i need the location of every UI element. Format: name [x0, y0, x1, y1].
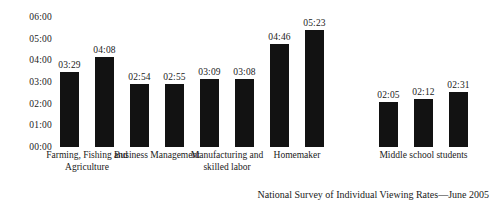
bar-slot: 04:08: [95, 12, 114, 147]
y-tick-label: 01:00: [29, 120, 52, 130]
bar: [379, 102, 398, 147]
bar-value-label: 02:31: [447, 80, 470, 90]
bar-value-label: 03:29: [58, 60, 81, 70]
bar-value-label: 03:08: [233, 67, 256, 77]
bar: [95, 57, 114, 147]
bar: [270, 44, 289, 147]
bar-value-label: 02:12: [412, 87, 435, 97]
bar-chart: 06:0005:0004:0003:0002:0001:0000:00 03:2…: [0, 0, 495, 207]
bar: [305, 30, 324, 147]
category-axis: Farming, Fishing and AgricultureBusiness…: [56, 150, 495, 192]
bar-value-label: 04:46: [268, 32, 291, 42]
bar: [130, 84, 149, 147]
bar-value-label: 03:09: [198, 67, 221, 77]
y-tick-label: 03:00: [29, 77, 52, 87]
bar-slot: 05:23: [305, 12, 324, 147]
bar-slot: 02:54: [130, 12, 149, 147]
y-tick-label: 05:00: [29, 34, 52, 44]
bar-slot: 02:31: [449, 12, 468, 147]
chart-caption: National Survey of Individual Viewing Ra…: [258, 189, 489, 201]
bar-value-label: 02:55: [163, 72, 186, 82]
bar-slot: 03:09: [200, 12, 219, 147]
y-tick-label: 04:00: [29, 55, 52, 65]
bar: [60, 72, 79, 147]
bar-slot: 04:46: [270, 12, 289, 147]
bar: [200, 79, 219, 147]
bar-slot: 03:08: [235, 12, 254, 147]
y-tick-label: 06:00: [29, 12, 52, 22]
bar-value-label: 04:08: [93, 45, 116, 55]
bar: [165, 84, 184, 147]
bar-value-label: 02:54: [128, 72, 151, 82]
bar-slot: 02:55: [165, 12, 184, 147]
plot-area: 03:2904:0802:5402:5503:0903:0804:4605:23…: [56, 12, 495, 147]
bar-slot: 02:12: [414, 12, 433, 147]
bar-slot: 03:29: [60, 12, 79, 147]
bar: [414, 99, 433, 147]
y-axis: 06:0005:0004:0003:0002:0001:0000:00: [0, 0, 56, 160]
bar: [235, 79, 254, 147]
bar: [449, 92, 468, 147]
bar-value-label: 02:05: [377, 90, 400, 100]
bar-value-label: 05:23: [303, 18, 326, 28]
category-label: Homemaker: [251, 150, 343, 162]
bar-slot: 02:05: [379, 12, 398, 147]
y-tick-label: 02:00: [29, 99, 52, 109]
category-label: Middle school students: [378, 150, 470, 162]
